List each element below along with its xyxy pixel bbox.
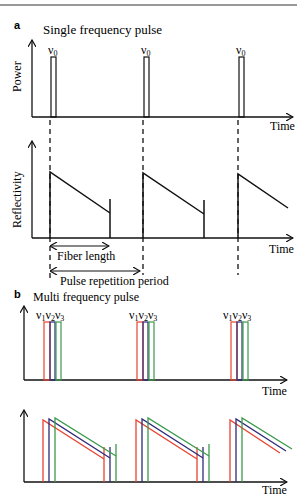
sawtooth-group-2 <box>136 418 209 482</box>
pulse-group-1-labels: ν1ν2ν3 <box>36 308 64 323</box>
multi-reflectivity-time-label: Time <box>262 483 287 497</box>
panel-a-title: Single frequency pulse <box>43 22 162 37</box>
sawtooth-1 <box>50 172 110 238</box>
pulse-1-label: ν0 <box>48 43 57 58</box>
fiber-length-label: Fiber length <box>57 249 115 263</box>
pulse-group-3: ν1ν2ν3 <box>223 308 251 380</box>
multi-reflectivity-plot: Time <box>24 410 292 497</box>
pulse-2-label: ν0 <box>141 43 150 58</box>
reflectivity-axis-label: Reflectivity <box>10 171 24 228</box>
panel-b-label: b <box>14 288 21 300</box>
pulse-group-1: ν1ν2ν3 <box>36 308 64 380</box>
sawtooth-group-1 <box>43 418 116 482</box>
multi-pulse-plot: Time ν1ν2ν3 ν1ν2ν3 ν1ν2ν3 <box>24 306 287 398</box>
figure: a Single frequency pulse Power Time ν0 ν… <box>0 0 307 497</box>
panel-a-label: a <box>14 19 21 31</box>
pulse-group-3-labels: ν1ν2ν3 <box>223 308 251 323</box>
pulse-1 <box>51 57 56 117</box>
panel-a: a Single frequency pulse Power Time ν0 ν… <box>10 19 295 288</box>
multi-pulse-time-label: Time <box>262 384 287 398</box>
pulse-2 <box>144 57 149 117</box>
reflectivity-plot: Reflectivity Time Fiber length Pulse rep… <box>10 141 294 288</box>
panel-b-title: Multi frequency pulse <box>33 290 139 304</box>
power-plot: Power Time ν0 ν0 ν0 <box>10 40 295 133</box>
sawtooth-2 <box>143 173 204 238</box>
sawtooth-group-3 <box>230 418 292 482</box>
power-time-label: Time <box>270 119 295 133</box>
pulse-group-2-labels: ν1ν2ν3 <box>129 308 157 323</box>
sawtooth-3 <box>238 174 288 238</box>
pulse-3 <box>239 57 244 117</box>
pulse-group-2: ν1ν2ν3 <box>129 308 157 380</box>
reflectivity-time-label: Time <box>269 242 294 256</box>
pulse-3-label: ν0 <box>236 43 245 58</box>
repetition-period-label: Pulse repetition period <box>60 274 169 288</box>
power-axis-label: Power <box>10 61 24 92</box>
panel-b: b Multi frequency pulse Time ν1ν2ν3 ν1ν2… <box>14 288 292 497</box>
